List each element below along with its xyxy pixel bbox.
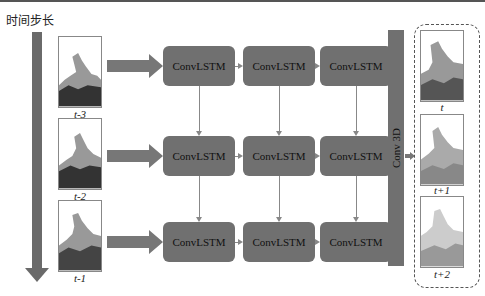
input-frame-t-3 xyxy=(58,36,102,108)
arrowhead xyxy=(315,63,320,69)
connector xyxy=(199,86,200,131)
arrowhead xyxy=(353,217,359,222)
input-label: t-1 xyxy=(58,272,102,284)
convlstm-cell: ConvLSTM xyxy=(163,136,235,176)
arrowhead xyxy=(276,131,282,136)
sea-ice-map-image xyxy=(59,201,101,271)
convlstm-cell: ConvLSTM xyxy=(320,136,392,176)
arrowhead xyxy=(196,131,202,136)
arrowhead xyxy=(353,131,359,136)
convlstm-cell: ConvLSTM xyxy=(163,46,235,86)
conv3d-label: Conv 3D xyxy=(390,128,402,168)
connector xyxy=(356,176,357,217)
sea-ice-map-image xyxy=(421,31,463,101)
output-label: t+1 xyxy=(420,184,464,196)
output-frame-t xyxy=(420,30,464,102)
input-frame-t-1 xyxy=(58,200,102,272)
convlstm-cell: ConvLSTM xyxy=(243,222,315,262)
connector xyxy=(199,176,200,217)
convlstm-cell: ConvLSTM xyxy=(243,46,315,86)
sea-ice-map-image xyxy=(421,115,463,185)
sea-ice-map-image xyxy=(59,37,101,107)
arrowhead xyxy=(238,153,243,159)
convlstm-cell: ConvLSTM xyxy=(243,136,315,176)
arrowhead xyxy=(276,217,282,222)
convlstm-cell: ConvLSTM xyxy=(320,222,392,262)
sea-ice-map-image xyxy=(59,119,101,189)
arrowhead xyxy=(196,217,202,222)
top-border xyxy=(0,0,485,2)
connector xyxy=(356,86,357,131)
arrowhead xyxy=(238,239,243,245)
time-axis-arrow-head xyxy=(25,268,49,282)
connector xyxy=(279,86,280,131)
input-frame-t-2 xyxy=(58,118,102,190)
conv3d-block: Conv 3D xyxy=(388,30,404,266)
sea-ice-map-image xyxy=(421,197,463,267)
convlstm-cell: ConvLSTM xyxy=(163,222,235,262)
input-arrow xyxy=(107,144,163,168)
arrowhead xyxy=(238,63,243,69)
time-axis-arrow xyxy=(32,32,42,270)
arrowhead xyxy=(315,153,320,159)
output-label: t+2 xyxy=(420,268,464,280)
input-arrow xyxy=(107,230,163,254)
output-frame-t+1 xyxy=(420,114,464,186)
convlstm-cell: ConvLSTM xyxy=(320,46,392,86)
output-frame-t+2 xyxy=(420,196,464,268)
time-step-title: 时间步长 xyxy=(6,11,54,28)
connector xyxy=(279,176,280,217)
output-label: t xyxy=(420,101,464,113)
arrowhead xyxy=(315,239,320,245)
input-arrow xyxy=(107,54,163,78)
